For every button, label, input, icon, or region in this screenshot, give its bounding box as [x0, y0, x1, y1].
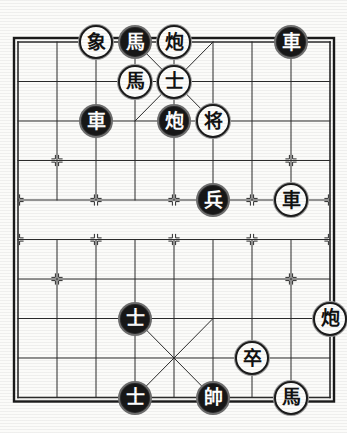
piece-glyph: 馬: [282, 388, 301, 407]
piece-cannon[interactable]: 炮: [313, 302, 347, 336]
piece-general[interactable]: 将: [196, 104, 230, 138]
piece-glyph: 帥: [204, 388, 223, 407]
piece-glyph: 兵: [204, 190, 223, 209]
piece-glyph: 車: [282, 190, 301, 209]
piece-glyph: 士: [126, 309, 145, 328]
piece-horse[interactable]: 馬: [118, 25, 152, 59]
piece-pawn[interactable]: 卒: [235, 341, 269, 375]
piece-advisor[interactable]: 士: [157, 65, 191, 99]
piece-glyph: 将: [204, 111, 223, 130]
piece-glyph: 馬: [126, 32, 145, 51]
piece-horse[interactable]: 馬: [274, 381, 308, 415]
piece-cannon[interactable]: 炮: [157, 104, 191, 138]
piece-marshal[interactable]: 帥: [196, 381, 230, 415]
piece-cannon[interactable]: 炮: [157, 25, 191, 59]
piece-chariot[interactable]: 車: [274, 25, 308, 59]
piece-glyph: 卒: [243, 348, 262, 367]
piece-glyph: 象: [87, 32, 106, 51]
piece-advisor[interactable]: 士: [118, 302, 152, 336]
piece-chariot[interactable]: 車: [274, 183, 308, 217]
piece-glyph: 炮: [321, 309, 340, 328]
piece-advisor[interactable]: 士: [118, 381, 152, 415]
piece-soldier[interactable]: 兵: [196, 183, 230, 217]
piece-glyph: 車: [282, 32, 301, 51]
piece-glyph: 士: [165, 72, 184, 91]
piece-glyph: 車: [87, 111, 106, 130]
piece-horse[interactable]: 馬: [118, 65, 152, 99]
piece-glyph: 炮: [165, 32, 184, 51]
pieces-layer: 象馬炮車馬士車炮将兵車士炮卒士帥馬: [0, 0, 347, 433]
piece-glyph: 馬: [126, 72, 145, 91]
piece-glyph: 士: [126, 388, 145, 407]
piece-chariot[interactable]: 車: [79, 104, 113, 138]
piece-glyph: 炮: [165, 111, 184, 130]
xiangqi-board: 象馬炮車馬士車炮将兵車士炮卒士帥馬: [0, 0, 347, 433]
piece-elephant[interactable]: 象: [79, 25, 113, 59]
